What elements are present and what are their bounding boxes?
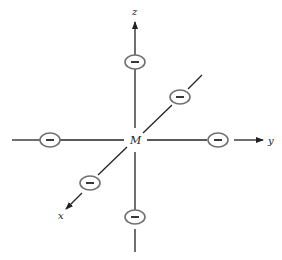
metal-center-label: M (129, 134, 142, 147)
ligand-plus-z (125, 55, 145, 69)
z-axis-label: z (131, 6, 138, 17)
x-axis-label: x (58, 210, 64, 221)
ligand-plus-x (80, 176, 100, 190)
ligand-plus-y (208, 133, 228, 147)
octahedral-field-diagram: z y x M (0, 0, 282, 260)
ligand-minus-z (125, 210, 145, 224)
ligand-minus-y (40, 133, 60, 147)
ligand-minus-x (170, 90, 190, 104)
y-axis-label: y (267, 135, 274, 146)
